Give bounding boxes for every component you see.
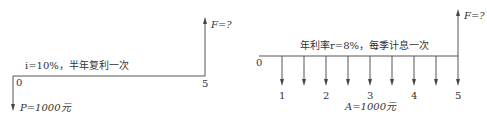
period-label-1: 1 <box>279 90 285 101</box>
right-rate-text: 年利率r=8%，每季计息一次 <box>300 39 429 51</box>
period-label-5: 5 <box>455 90 461 101</box>
arrow-down-icon <box>346 79 350 86</box>
left-present-value: P=1000元 <box>19 102 72 113</box>
arrow-down-icon <box>434 79 438 86</box>
arrow-down-icon <box>11 104 15 111</box>
left-cash-flow-diagram: i=10%，半年复利一次 0 5 P=1000元 F=? <box>11 17 232 113</box>
payment-arrows <box>280 56 460 86</box>
arrow-down-icon <box>412 79 416 86</box>
period-label-3: 3 <box>367 90 373 101</box>
arrow-down-icon <box>302 79 306 86</box>
arrow-down-icon <box>456 79 460 86</box>
right-annuity-value: A=1000元 <box>344 101 397 112</box>
arrow-down-icon <box>280 79 284 86</box>
arrow-down-icon <box>390 79 394 86</box>
left-start-label: 0 <box>16 77 22 88</box>
left-future-value: F=? <box>210 19 232 30</box>
arrow-up-icon <box>456 9 460 16</box>
arrow-down-icon <box>368 79 372 86</box>
arrow-up-icon <box>203 17 207 24</box>
left-end-label: 5 <box>202 78 208 89</box>
right-start-label: 0 <box>256 57 262 68</box>
arrow-down-icon <box>324 79 328 86</box>
cash-flow-diagrams: i=10%，半年复利一次 0 5 P=1000元 F=? 年利率r=8%，每季计… <box>0 0 487 124</box>
left-rate-text: i=10%，半年复利一次 <box>25 59 129 71</box>
period-label-4: 4 <box>411 90 417 101</box>
right-cash-flow-diagram: 年利率r=8%，每季计息一次 0 1 2 3 4 5 A=1000元 F=? <box>256 9 485 112</box>
right-future-value: F=? <box>463 10 485 21</box>
period-label-2: 2 <box>323 90 329 101</box>
